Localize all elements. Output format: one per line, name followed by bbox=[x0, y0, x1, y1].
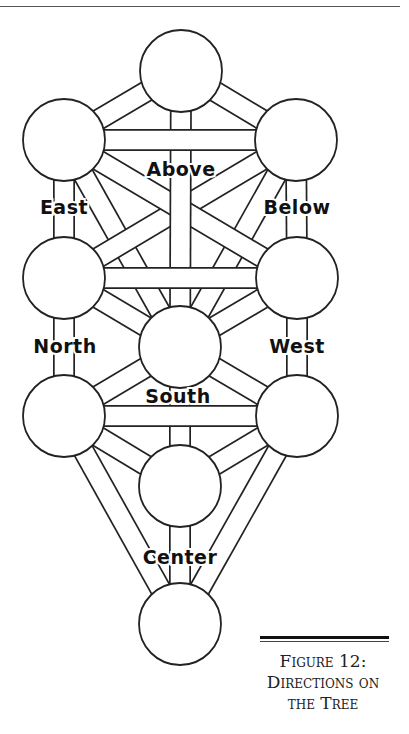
figure-caption: Figure 12: Directions on the Tree bbox=[252, 651, 394, 714]
tree-of-life-diagram: Above East Below North West South Center bbox=[0, 0, 409, 734]
sphere-top bbox=[140, 30, 222, 112]
sphere-upper-left bbox=[23, 99, 105, 181]
sphere-bottom bbox=[139, 583, 221, 665]
sphere-lower-left bbox=[23, 375, 105, 457]
label-below: Below bbox=[264, 196, 331, 218]
label-center: Center bbox=[143, 546, 218, 568]
label-south: South bbox=[145, 385, 210, 407]
caption-rule-thin bbox=[260, 641, 389, 642]
caption-line-2: Directions on bbox=[252, 672, 394, 693]
sphere-lower-right bbox=[256, 375, 338, 457]
label-east: East bbox=[40, 196, 88, 218]
caption-line-3: the Tree bbox=[252, 693, 394, 714]
sphere-center bbox=[139, 306, 221, 388]
sphere-middle-right bbox=[256, 237, 338, 319]
label-north: North bbox=[33, 335, 96, 357]
sphere-upper-right bbox=[255, 99, 337, 181]
label-west: West bbox=[269, 335, 325, 357]
sphere-middle-left bbox=[23, 237, 105, 319]
caption-rule bbox=[260, 636, 389, 639]
caption-line-1: Figure 12: bbox=[252, 651, 394, 672]
sphere-lower-middle bbox=[139, 445, 221, 527]
label-above: Above bbox=[146, 158, 215, 180]
